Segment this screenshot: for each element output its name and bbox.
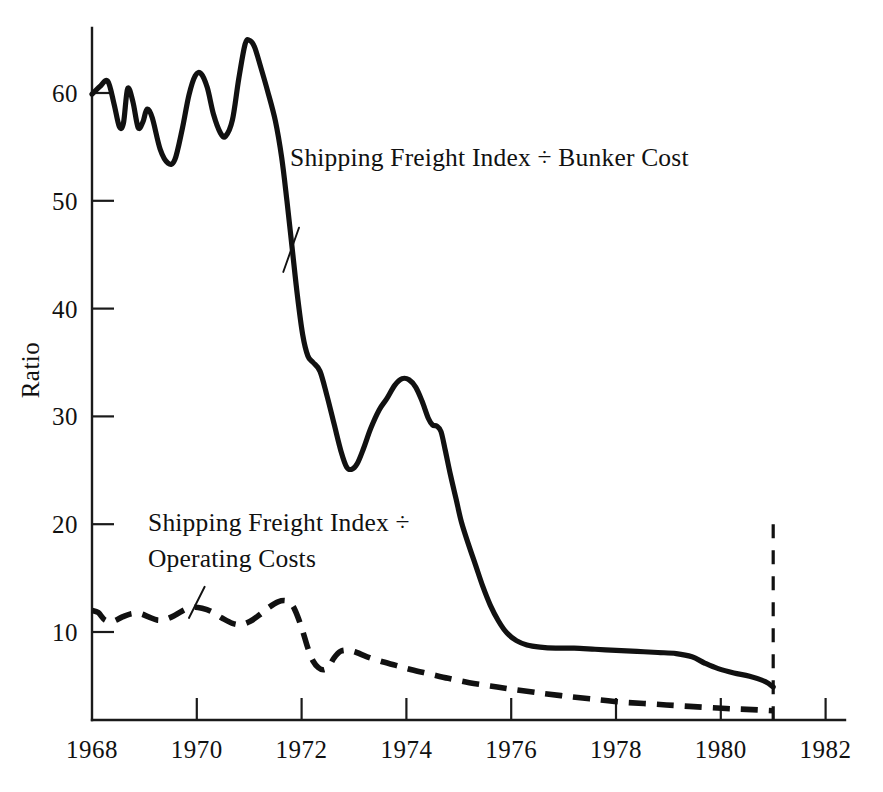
y-tick-label: 20 — [10, 512, 78, 537]
x-tick-label: 1968 — [66, 737, 118, 762]
x-tick-label: 1976 — [485, 737, 537, 762]
y-axis-title: Ratio — [17, 325, 45, 415]
bunker-cost-annotation: Shipping Freight Index ÷ Bunker Cost — [290, 140, 689, 176]
operating-costs-annotation: Shipping Freight Index ÷ Operating Costs — [148, 505, 410, 577]
y-tick-label: 60 — [10, 81, 78, 106]
annotation-leader-1 — [189, 587, 205, 618]
y-axis-ticks — [92, 93, 114, 632]
y-tick-label: 40 — [10, 296, 78, 321]
chart-axes — [92, 28, 845, 720]
chart-figure: 19681970197219741976197819801982 1020304… — [0, 0, 883, 792]
series-line-0 — [92, 40, 773, 687]
x-tick-label: 1970 — [171, 737, 223, 762]
x-tick-label: 1978 — [590, 737, 642, 762]
x-tick-label: 1982 — [800, 737, 852, 762]
chart-plot-area — [0, 0, 883, 792]
y-tick-label: 10 — [10, 620, 78, 645]
y-tick-label: 50 — [10, 188, 78, 213]
x-axis-ticks — [197, 698, 826, 720]
x-tick-label: 1974 — [380, 737, 432, 762]
x-tick-label: 1980 — [695, 737, 747, 762]
x-tick-label: 1972 — [276, 737, 328, 762]
